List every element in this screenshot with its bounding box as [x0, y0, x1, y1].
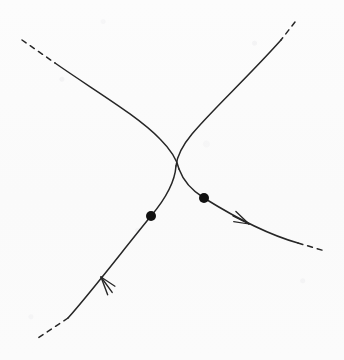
marked-point-right — [199, 193, 209, 203]
branch-a-solid-lower — [179, 169, 298, 243]
branch-a-solid-upper — [55, 63, 179, 169]
branch-b-solid-lower — [68, 166, 176, 318]
dash-upper-right-segment — [281, 22, 295, 40]
branch-a-group — [22, 40, 325, 251]
branch-b-group — [38, 22, 295, 338]
marked-point-left — [146, 211, 156, 221]
curve-diagram-canvas: Two crossing trajectory branches with ma… — [0, 0, 344, 360]
dash-upper-left-segment — [22, 40, 55, 63]
direction-arrow-lower-right — [231, 211, 252, 227]
branch-b-solid-upper — [176, 40, 281, 166]
dash-lower-right-segment — [298, 243, 325, 251]
dash-lower-left-segment — [38, 318, 68, 338]
direction-arrow-lower-left — [96, 274, 117, 296]
figure-container: Two crossing trajectory branches with ma… — [0, 0, 344, 360]
